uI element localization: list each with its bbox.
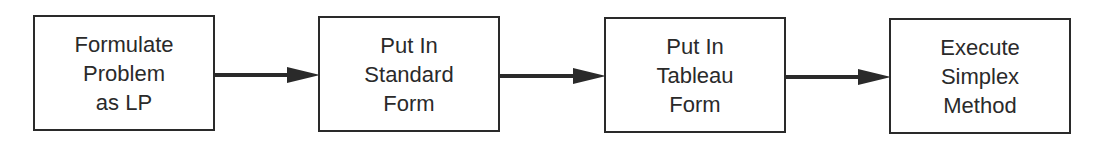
step-label-line: Put In: [666, 32, 723, 61]
arrow-right-icon: [786, 67, 891, 87]
step-label-line: Execute: [940, 33, 1020, 62]
step-label-line: Form: [383, 89, 434, 118]
step-label-line: Method: [943, 91, 1016, 120]
arrow-right-icon: [500, 66, 606, 86]
step-label-line: Put In: [380, 31, 437, 60]
step-label-line: Standard: [364, 60, 453, 89]
step-label-line: Formulate: [74, 30, 173, 59]
step-execute-simplex: Execute Simplex Method: [889, 18, 1071, 134]
step-tableau-form: Put In Tableau Form: [604, 17, 786, 133]
step-label-line: as LP: [96, 88, 152, 117]
arrow-right-icon: [215, 65, 320, 85]
step-label-line: Simplex: [941, 62, 1019, 91]
step-standard-form: Put In Standard Form: [318, 16, 500, 132]
step-label-line: Problem: [83, 59, 165, 88]
step-formulate-problem: Formulate Problem as LP: [33, 15, 215, 131]
step-label-line: Form: [669, 90, 720, 119]
step-label-line: Tableau: [656, 61, 733, 90]
